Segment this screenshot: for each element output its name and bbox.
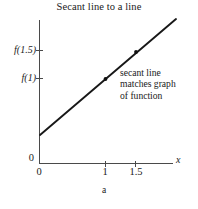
x-tick-label-1-5: 1.5 xyxy=(124,167,148,178)
figure-container: Secant line to a line f(1.5) f(1) 0 0 1 … xyxy=(0,0,198,209)
y-axis-origin-label: 0 xyxy=(20,153,34,164)
secant-annotation: secant line matches graph of function xyxy=(120,67,196,101)
point-marker-f15 xyxy=(134,50,138,54)
y-axis-label-f15: f(1.5) xyxy=(2,45,36,55)
below-axis-label-a: a xyxy=(96,186,112,196)
x-tick-label-1: 1 xyxy=(99,167,111,178)
annotation-line-2: matches graph xyxy=(120,78,196,89)
x-axis-label: x xyxy=(176,155,180,165)
annotation-line-3: of function xyxy=(120,90,196,101)
annotation-line-1: secant line xyxy=(120,67,196,78)
plot-svg xyxy=(0,0,198,209)
y-axis-label-f1: f(1) xyxy=(2,73,36,83)
x-tick-label-0: 0 xyxy=(33,167,45,178)
point-marker-f1 xyxy=(104,77,108,81)
